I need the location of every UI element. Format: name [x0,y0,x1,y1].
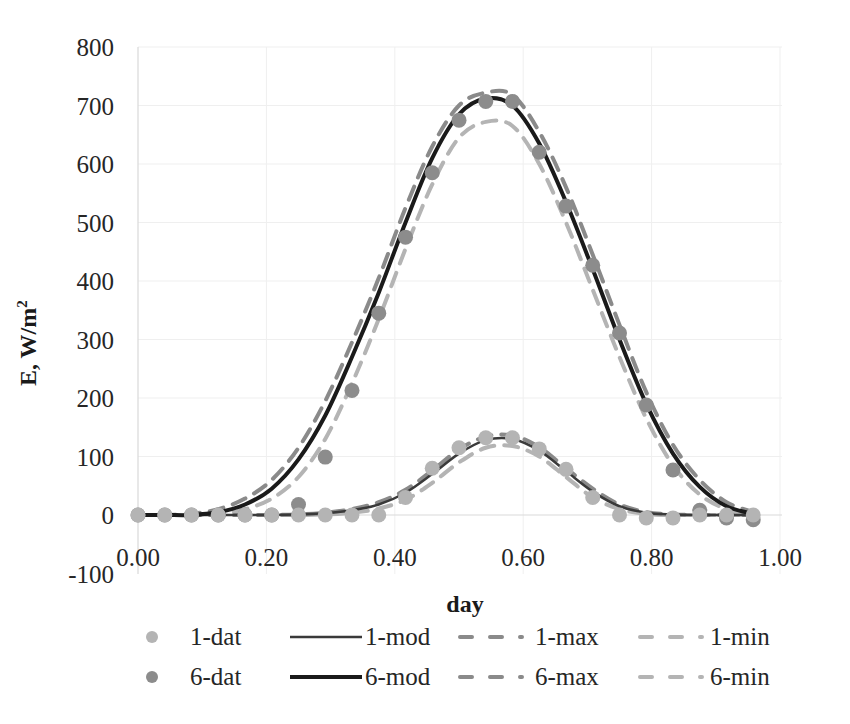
y-tick-label: -100 [68,561,114,588]
marker-1-dat [559,462,574,477]
y-axis-title-main: E, W/m [15,308,41,386]
y-tick-label: 200 [77,385,115,412]
y-axis-ticks: -1000100200300400500600700800 [68,34,114,588]
marker-1-dat [211,508,226,523]
marker-1-dat [505,430,520,445]
x-axis-ticks: 0.000.200.400.600.801.00 [116,544,802,571]
marker-6-dat [398,230,413,245]
marker-1-dat [131,508,146,523]
series-1-min [138,445,753,515]
marker-1-dat [425,461,440,476]
x-axis-title: day [446,591,483,617]
x-tick-label: 0.20 [245,544,289,571]
y-tick-label: 0 [102,502,115,529]
x-tick-label: 1.00 [758,544,802,571]
legend-label-6-dat: 6-dat [190,663,241,690]
legend-label-6-min: 6-min [710,663,770,690]
marker-1-dat [264,508,279,523]
marker-1-dat [478,430,493,445]
marker-6-dat [665,462,680,477]
x-tick-label: 0.00 [116,544,160,571]
marker-1-dat [532,441,547,456]
marker-6-dat [505,94,520,109]
marker-6-dat [478,94,493,109]
chart: -1000100200300400500600700800 0.000.200.… [0,0,850,724]
marker-6-dat [371,306,386,321]
y-tick-label: 800 [77,34,115,61]
marker-6-dat [425,165,440,180]
marker-1-dat [692,508,707,523]
series-6-max [138,91,753,515]
y-tick-label: 300 [77,327,115,354]
x-tick-label: 0.60 [501,544,545,571]
marker-1-dat [157,508,172,523]
marker-6-dat [612,326,627,341]
marker-1-dat [398,490,413,505]
marker-1-dat [665,510,680,525]
legend-symbol-1-dat [146,631,158,643]
marker-6-dat [639,398,654,413]
series-6-mod [138,98,753,515]
marker-1-dat [639,510,654,525]
marker-6-dat [585,258,600,273]
y-axis-title-sup: 2 [14,300,30,308]
x-tick-label: 0.40 [373,544,417,571]
legend-label-1-dat: 1-dat [190,623,241,650]
y-tick-label: 100 [77,444,115,471]
y-axis-title: E, W/m2 [14,300,41,386]
marker-1-dat [719,508,734,523]
series-6-min [138,120,753,515]
legend: 1-dat1-mod1-max1-min6-dat6-mod6-max6-min [146,623,770,690]
marker-1-dat [318,508,333,523]
marker-1-dat [344,508,359,523]
legend-label-1-mod: 1-mod [365,623,431,650]
legend-label-6-mod: 6-mod [365,663,431,690]
legend-label-6-max: 6-max [535,663,599,690]
marker-6-dat [559,199,574,214]
legend-label-1-min: 1-min [710,623,770,650]
y-tick-label: 600 [77,151,115,178]
x-tick-label: 0.80 [630,544,674,571]
marker-1-dat [184,508,199,523]
marker-6-dat [532,145,547,160]
marker-1-dat [238,508,253,523]
marker-6-dat [452,113,467,128]
plot-series [131,91,761,527]
y-tick-label: 700 [77,93,115,120]
marker-1-dat [452,440,467,455]
legend-symbol-6-dat [146,671,158,683]
legend-label-1-max: 1-max [535,623,599,650]
y-tick-label: 500 [77,210,115,237]
marker-1-dat [371,508,386,523]
marker-6-dat [344,383,359,398]
marker-1-dat [746,508,761,523]
marker-1-dat [291,508,306,523]
marker-1-dat [612,508,627,523]
marker-1-dat [585,490,600,505]
y-axis-title-group: E, W/m2 [14,300,41,386]
marker-6-dat [318,450,333,465]
y-tick-label: 400 [77,268,115,295]
